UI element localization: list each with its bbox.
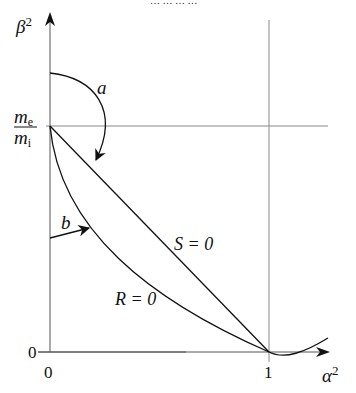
y-axis-label: β2 [15, 14, 32, 37]
arrow-a-label: a [97, 77, 107, 98]
x-tick-zero: 0 [44, 363, 53, 382]
dispersion-diagram: … … … … β2 α2 me mi 0 0 1 a b S = 0 R = … [0, 0, 356, 393]
cut-off-header-text: … … … … [150, 0, 198, 6]
arrow-b-label: b [61, 212, 71, 233]
y-tick-zero: 0 [28, 343, 37, 362]
svg-text:me: me [14, 106, 33, 129]
s-zero-curve [50, 126, 269, 352]
s-zero-label: S = 0 [174, 234, 213, 254]
x-axis-label: α2 [322, 363, 338, 386]
me-over-mi-label: me mi [14, 106, 37, 150]
x-tick-one: 1 [264, 363, 273, 382]
svg-text:mi: mi [14, 127, 32, 150]
r-zero-label: R = 0 [114, 289, 156, 309]
